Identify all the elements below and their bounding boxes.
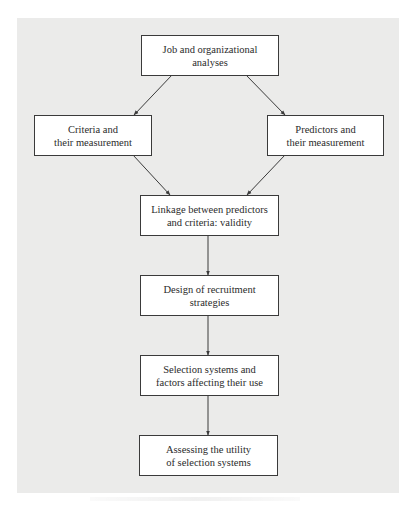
node-label-line: Predictors and [287,123,365,136]
node-predictors: Predictors and their measurement [267,115,384,156]
node-utility-assessment: Assessing the utility of selection syste… [139,435,278,476]
arrow-criteria-to-linkage [133,155,170,195]
node-label-line: Design of recruitment [163,283,255,296]
node-label-line: analyses [163,56,258,69]
node-linkage-validity: Linkage between predictors and criteria:… [140,195,279,236]
node-selection-systems: Selection systems and factors affecting … [140,355,279,396]
arrow-predictors-to-linkage [247,155,285,195]
node-label-line: Job and organizational [163,43,258,56]
node-label-line: of selection systems [166,456,251,469]
node-criteria: Criteria and their measurement [34,115,152,156]
node-label-line: Criteria and [54,123,132,136]
faint-caption-smudge [90,497,300,501]
arrow-job-to-predictors [246,75,285,115]
arrow-job-to-criteria [134,75,172,115]
node-label-line: Selection systems and [156,363,263,376]
node-label-line: strategies [163,296,255,309]
node-label-line: their measurement [287,136,365,149]
node-label-line: factors affecting their use [156,376,263,389]
node-job-analyses: Job and organizational analyses [141,35,279,76]
node-label-line: and criteria: validity [151,216,268,229]
node-recruitment-design: Design of recruitment strategies [140,275,279,316]
node-label-line: their measurement [54,136,132,149]
node-label-line: Linkage between predictors [151,203,268,216]
node-label-line: Assessing the utility [166,443,251,456]
